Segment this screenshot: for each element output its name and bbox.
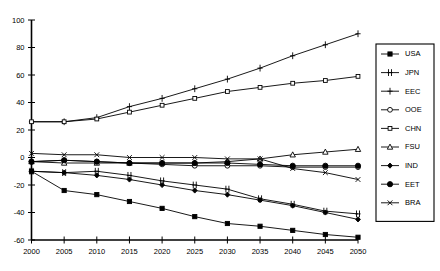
y-tick-label: 60 [16,71,24,80]
series-path-ind [32,171,359,219]
chart-canvas: 100806040200-20-40-60 200020052010201520… [0,0,440,271]
x-tick-label: 2030 [219,247,236,256]
x-tick-label: 2025 [186,247,203,256]
legend-label-chn: CHN [405,124,421,133]
x-tick-label: 2045 [317,247,334,256]
y-tick-label: -20 [14,181,25,190]
legend-label-bra: BRA [405,198,420,207]
x-tick-label: 2000 [23,247,40,256]
series-usa [29,169,360,239]
legend-label-eec: EEC [405,87,421,96]
series-chn [30,74,360,123]
line-chart: 100806040200-20-40-60 200020052010201520… [0,0,440,271]
legend-label-ind: IND [405,161,419,170]
x-tick-label: 2005 [56,247,73,256]
x-tick-label: 2040 [284,247,301,256]
y-tick-label: 40 [16,98,24,107]
y-tick-label: -40 [14,208,25,217]
chart-legend: USAJPNEECOOECHNFSUINDEETBRA [376,44,434,221]
y-tick-label: 0 [20,153,24,162]
legend-label-fsu: FSU [405,142,420,151]
series-path-eec [32,34,359,122]
legend-label-jpn: JPN [405,68,419,77]
x-tick-label: 2050 [350,247,367,256]
series-eec [29,30,361,125]
chart-axes [32,20,359,240]
y-tick-label: 20 [16,126,24,135]
series-path-usa [32,171,359,237]
y-tick-label: -60 [14,236,25,245]
x-tick-label: 2035 [252,247,269,256]
y-tick-label: 100 [12,16,25,25]
legend-label-usa: USA [405,49,420,58]
legend-label-eet: EET [405,180,420,189]
x-tick-label: 2010 [88,247,105,256]
legend-label-ooe: OOE [405,105,422,114]
y-tick-label: 80 [16,43,24,52]
chart-series-group [29,30,361,239]
series-ind [29,169,360,222]
x-tick-label: 2020 [154,247,171,256]
x-tick-label: 2015 [121,247,138,256]
